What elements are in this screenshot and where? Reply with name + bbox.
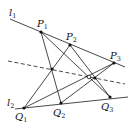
label-l1: l1 xyxy=(9,7,16,20)
label-q2: Q2 xyxy=(53,107,65,120)
intersection-x13 xyxy=(87,75,91,79)
label-q1: Q1 xyxy=(15,111,27,124)
points-layer xyxy=(22,30,115,109)
pappus-diagram: l1l2P1P2P3Q1Q2Q3 xyxy=(0,0,132,128)
label-p2: P2 xyxy=(65,31,77,44)
segment-p3-q2 xyxy=(61,63,114,103)
label-l2: l2 xyxy=(7,97,14,110)
point-q2 xyxy=(59,101,62,104)
segment-p1-q2 xyxy=(41,32,61,103)
point-p1 xyxy=(39,30,42,33)
pappus-line-dashed xyxy=(8,61,125,84)
label-q3: Q3 xyxy=(101,101,113,114)
point-q3 xyxy=(108,95,111,98)
intersection-x12 xyxy=(50,67,53,70)
point-p2 xyxy=(68,43,71,46)
line-l1 xyxy=(10,19,125,67)
point-p3 xyxy=(112,61,115,64)
intersection-x23 xyxy=(93,76,96,79)
point-q1 xyxy=(22,106,25,109)
label-p1: P1 xyxy=(36,18,48,31)
